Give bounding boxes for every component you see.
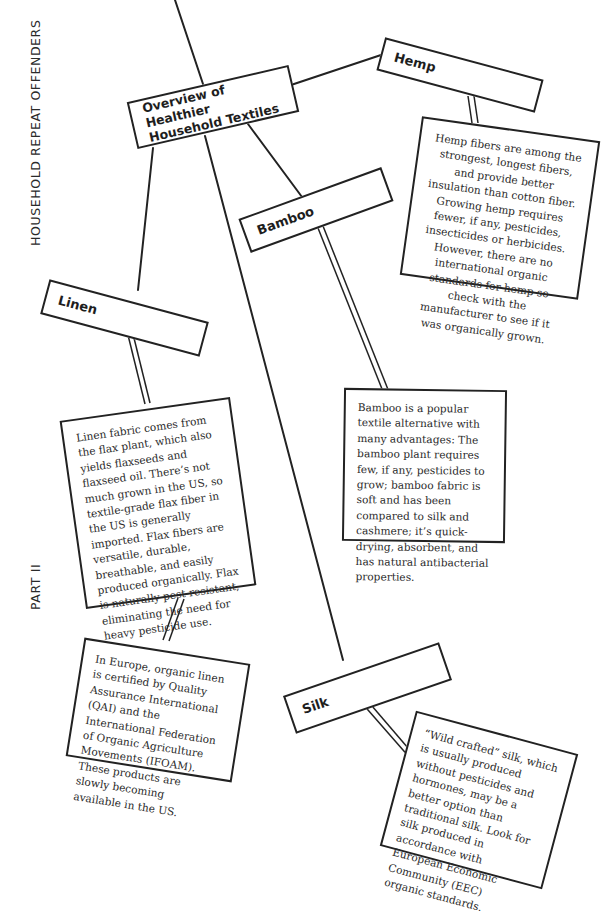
connector-root-to-hemp xyxy=(288,55,381,86)
connector-top-to-root xyxy=(175,0,203,84)
linen-description: Linen fabric comes from the flax plant, … xyxy=(62,399,261,656)
connector-root-to-linen xyxy=(138,148,153,290)
bamboo-description-box: Bamboo is a popular textile alternative … xyxy=(342,388,507,543)
hemp-description: Hemp fibers are among the strongest, lon… xyxy=(393,119,598,362)
linen-description-box: Linen fabric comes from the flax plant, … xyxy=(60,397,257,609)
connector-root-to-bamboo xyxy=(248,124,302,197)
linen-note-box: In Europe, organic linen is certified by… xyxy=(66,638,251,783)
bamboo-description: Bamboo is a popular textile alternative … xyxy=(343,390,505,597)
part-label: PART II xyxy=(28,564,43,610)
hemp-description-box: Hemp fibers are among the strongest, lon… xyxy=(400,116,601,299)
linen-note: In Europe, organic linen is certified by… xyxy=(59,640,248,838)
section-title: HOUSEHOLD REPEAT OFFENDERS xyxy=(28,20,43,246)
